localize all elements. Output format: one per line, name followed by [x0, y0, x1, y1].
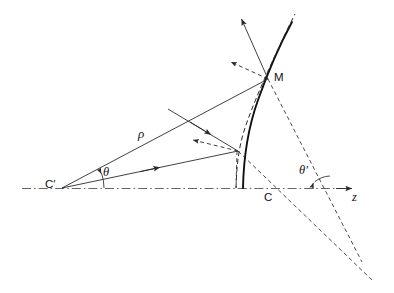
label-z-axis: z [352, 190, 357, 205]
reflected-ray-m-solid [242, 19, 269, 79]
label-c-prime: C′ [45, 178, 55, 190]
theta-prime-arc-arrow [312, 183, 313, 187]
label-m: M [274, 71, 284, 83]
label-theta-prime: θ′ [299, 163, 308, 178]
theta-prime-arc [315, 176, 331, 182]
label-c: C [264, 191, 272, 203]
reflected-ray-lower-dashed [193, 140, 238, 151]
normal-line-m-dashed [268, 79, 362, 262]
ray-diagram-svg [0, 0, 394, 293]
theta-arc-arrow [99, 169, 101, 174]
reflected-ray-m-dashed [231, 62, 268, 79]
label-rho: ρ [138, 126, 144, 142]
figure-canvas: C′ C M ρ θ θ′ z [0, 0, 394, 293]
incident-ray-oblique-arrow [190, 122, 211, 135]
label-theta: θ [103, 165, 109, 180]
incident-ray-lower-arrow [140, 167, 160, 171]
